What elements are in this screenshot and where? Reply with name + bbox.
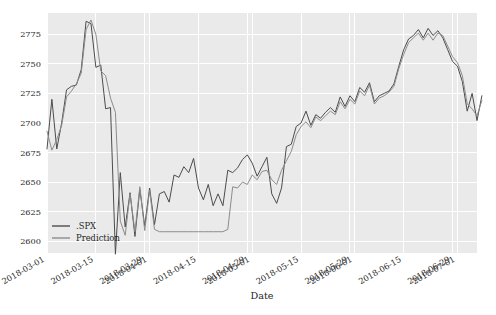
legend-label-prediction[interactable]: Prediction bbox=[76, 233, 120, 243]
line-chart-svg: 26002625265026752700272527502775 2018-03… bbox=[0, 0, 496, 315]
y-tick-label: 2675 bbox=[20, 148, 41, 158]
y-tick-label: 2700 bbox=[20, 118, 41, 128]
x-axis-label: Date bbox=[251, 290, 274, 301]
y-tick-label: 2775 bbox=[20, 29, 41, 39]
y-tick-label: 2725 bbox=[20, 88, 41, 98]
y-tick-label: 2650 bbox=[20, 177, 41, 187]
chart-figure: 26002625265026752700272527502775 2018-03… bbox=[0, 0, 496, 315]
y-tick-label: 2600 bbox=[20, 236, 41, 246]
y-tick-label: 2750 bbox=[20, 59, 41, 69]
legend-label-spx[interactable]: .SPX bbox=[76, 221, 96, 231]
y-tick-label: 2625 bbox=[20, 207, 41, 217]
